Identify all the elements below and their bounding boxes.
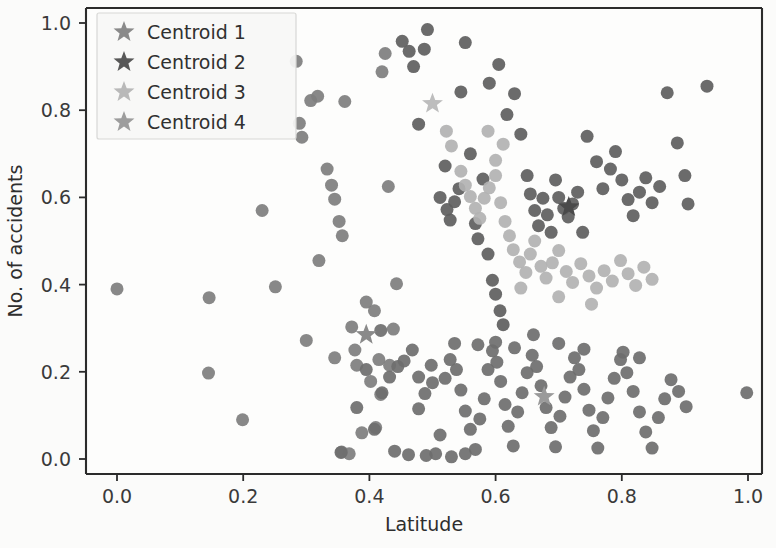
data-point — [587, 424, 600, 437]
legend-label: Centroid 3 — [147, 81, 246, 103]
data-point — [379, 47, 392, 60]
data-point — [439, 372, 452, 385]
data-point — [633, 351, 646, 364]
data-point — [335, 446, 348, 459]
x-axis-ticks: 0.00.20.40.60.81.0 — [102, 474, 763, 507]
data-point — [295, 131, 308, 144]
data-point — [566, 276, 579, 289]
data-point — [445, 450, 458, 463]
data-point — [203, 291, 216, 304]
data-point — [418, 43, 431, 56]
data-point — [348, 344, 361, 357]
data-point — [620, 366, 633, 379]
data-point — [407, 60, 420, 73]
data-point — [614, 254, 627, 267]
data-point — [328, 193, 341, 206]
data-point — [508, 87, 521, 100]
data-point — [398, 354, 411, 367]
data-point — [473, 212, 486, 225]
data-point — [519, 266, 532, 279]
data-point — [499, 398, 512, 411]
y-tick-label: 1.0 — [41, 12, 71, 34]
data-point — [596, 411, 609, 424]
data-point — [532, 219, 545, 232]
data-point — [627, 209, 640, 222]
data-point — [464, 147, 477, 160]
data-point — [627, 385, 640, 398]
data-point — [111, 282, 124, 295]
data-point — [448, 337, 461, 350]
data-point — [202, 367, 215, 380]
data-point — [545, 421, 558, 434]
data-point — [524, 248, 537, 261]
data-point — [311, 90, 324, 103]
x-tick-label: 0.0 — [102, 485, 132, 507]
data-point — [321, 163, 334, 176]
data-point — [671, 136, 684, 149]
data-point — [576, 226, 589, 239]
data-point — [489, 288, 502, 301]
data-point — [740, 386, 753, 399]
data-point — [388, 445, 401, 458]
data-point — [535, 260, 548, 273]
data-point — [601, 391, 614, 404]
data-point — [489, 336, 502, 349]
data-point — [508, 341, 521, 354]
x-axis-title: Latitude — [385, 513, 463, 535]
data-point — [490, 356, 503, 369]
data-point — [439, 160, 452, 173]
data-point — [364, 375, 377, 388]
y-tick-label: 0.8 — [41, 99, 71, 121]
data-point — [549, 173, 562, 186]
data-point — [549, 440, 562, 453]
data-point — [333, 215, 346, 228]
data-point — [300, 334, 313, 347]
data-point — [646, 273, 659, 286]
data-point — [368, 304, 381, 317]
data-point — [486, 274, 499, 287]
data-point — [560, 265, 573, 278]
data-point — [492, 58, 505, 71]
data-point — [637, 261, 650, 274]
data-point — [390, 277, 403, 290]
data-point — [591, 442, 604, 455]
data-point — [256, 204, 269, 217]
data-point — [511, 405, 524, 418]
data-point — [646, 442, 659, 455]
data-point — [541, 208, 554, 221]
data-point — [514, 282, 527, 295]
data-point — [440, 125, 453, 138]
data-point — [581, 130, 594, 143]
data-point — [473, 412, 486, 425]
data-point — [604, 163, 617, 176]
x-tick-label: 1.0 — [733, 485, 763, 507]
data-point — [497, 138, 510, 151]
data-point — [444, 214, 457, 227]
data-point — [526, 349, 539, 362]
y-axis-title: No. of accidents — [4, 165, 26, 318]
data-point — [406, 344, 419, 357]
data-point — [516, 386, 529, 399]
data-point — [617, 346, 630, 359]
data-point — [574, 257, 587, 270]
data-point — [680, 400, 693, 413]
data-point — [482, 125, 495, 138]
data-point — [420, 449, 433, 462]
data-point — [665, 373, 678, 386]
data-point — [374, 324, 387, 337]
data-point — [478, 392, 491, 405]
data-point — [355, 426, 368, 439]
data-point — [540, 272, 553, 285]
data-point — [483, 77, 496, 90]
data-point — [672, 385, 685, 398]
data-point — [682, 197, 695, 210]
data-point — [577, 383, 590, 396]
data-point — [553, 410, 566, 423]
data-point — [622, 193, 635, 206]
y-tick-label: 0.2 — [41, 361, 71, 383]
data-point — [606, 275, 619, 288]
data-point — [609, 145, 622, 158]
data-point — [527, 328, 540, 341]
data-point — [503, 229, 516, 242]
data-point — [521, 169, 534, 182]
